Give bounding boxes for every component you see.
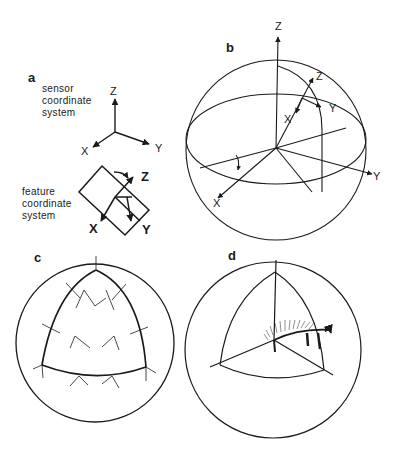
local-y-label: Y — [329, 102, 336, 114]
global-x-label: X — [213, 197, 220, 209]
sensor-caption-line: coordinate — [42, 95, 92, 107]
figure-canvas — [0, 0, 398, 451]
sensor-x-label: X — [81, 145, 88, 157]
panel-label-b: b — [226, 40, 234, 55]
panel-label-d: d — [228, 248, 236, 263]
feature-caption-line: feature — [22, 186, 72, 198]
sphere-c — [16, 256, 174, 422]
global-z-label: Z — [275, 20, 282, 32]
panel-label-a: a — [28, 70, 35, 85]
sensor-caption: sensor coordinate system — [42, 83, 92, 119]
feature-z-label: Z — [141, 169, 149, 184]
feature-caption-line: coordinate — [22, 198, 72, 210]
sensor-y-label: Y — [155, 142, 162, 154]
feature-caption-line: system — [22, 210, 72, 222]
feature-caption: feature coordinate system — [22, 186, 72, 222]
global-y-label: Y — [373, 170, 380, 182]
sensor-caption-line: system — [42, 107, 92, 119]
feature-x-label: X — [89, 221, 98, 236]
sphere-b — [186, 37, 372, 240]
local-z-label: Z — [316, 70, 323, 82]
sphere-d — [185, 260, 361, 438]
sensor-z-label: Z — [110, 85, 117, 97]
sensor-axes-icon — [93, 99, 149, 147]
panel-label-c: c — [34, 250, 41, 265]
feature-y-label: Y — [142, 222, 151, 237]
local-x-label: X — [284, 113, 291, 125]
sensor-caption-line: sensor — [42, 83, 92, 95]
